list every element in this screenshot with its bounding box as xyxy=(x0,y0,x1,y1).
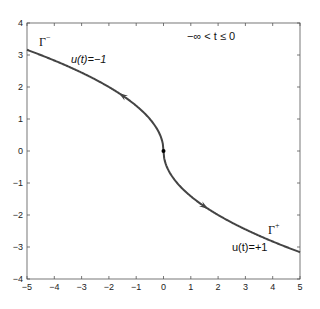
x-tick-label: −4 xyxy=(49,282,59,292)
x-tick-label: −3 xyxy=(76,282,86,292)
time-range-label: −∞ < t ≤ 0 xyxy=(187,30,235,42)
u-minus-label: u(t)=−1 xyxy=(71,53,106,65)
origin-point-marker xyxy=(162,149,166,153)
y-tick-label: 3 xyxy=(18,50,23,60)
x-tick-label: −1 xyxy=(131,282,141,292)
x-tick-label: 5 xyxy=(297,282,302,292)
y-tick-label: −4 xyxy=(13,274,23,284)
x-tick-label: 4 xyxy=(270,282,275,292)
x-tick-label: 3 xyxy=(243,282,248,292)
y-tick-label: 1 xyxy=(18,114,23,124)
u-plus-label: u(t)=+1 xyxy=(232,241,267,253)
y-tick-label: 4 xyxy=(18,18,23,28)
y-tick-label: −2 xyxy=(13,210,23,220)
y-tick-label: 2 xyxy=(18,82,23,92)
x-tick-label: 2 xyxy=(216,282,221,292)
x-tick-label: 0 xyxy=(161,282,166,292)
x-tick-label: −5 xyxy=(22,282,32,292)
x-tick-label: 1 xyxy=(188,282,193,292)
y-tick-label: 0 xyxy=(18,146,23,156)
y-tick-label: −1 xyxy=(13,178,23,188)
switching-curve-chart: −5−4−3−2−1012345−4−3−2−101234 −∞ < t ≤ 0… xyxy=(0,0,320,309)
y-tick-label: −3 xyxy=(13,242,23,252)
x-tick-label: −2 xyxy=(104,282,114,292)
